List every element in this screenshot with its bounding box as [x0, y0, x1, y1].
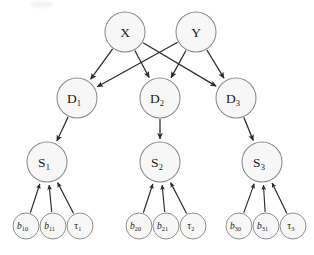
node-X: X: [105, 12, 145, 52]
edge-b11-to-S1: [49, 185, 52, 212]
node-S1: S1: [27, 142, 67, 182]
node-label-X: X: [120, 25, 130, 40]
edge-D1-to-S1: [57, 117, 68, 141]
node-D3: D3: [216, 78, 256, 118]
node-S2: S2: [140, 142, 180, 182]
edge-b20-to-S2: [143, 184, 152, 213]
node-b30: b30: [226, 213, 252, 239]
edge-b30-to-S3: [244, 184, 254, 213]
edge-Y-to-D2: [171, 50, 186, 77]
node-Y: Y: [176, 12, 216, 52]
edge-b21-to-S2: [162, 185, 165, 212]
node-t2: τ2: [180, 213, 206, 239]
edge-t2-to-S2: [171, 183, 187, 214]
node-label-Y: Y: [191, 25, 201, 40]
node-D1: D1: [57, 78, 97, 118]
node-b11: b11: [40, 213, 66, 239]
edges-layer: [30, 42, 287, 213]
edge-Y-to-D3: [207, 50, 224, 78]
edge-X-to-D1: [91, 49, 113, 79]
scan-artifact: [30, 1, 54, 8]
diagram-canvas: XYD1D2D3S1S2S3b10b11τ1b20b21τ2b30b31τ3: [0, 0, 314, 255]
node-D2: D2: [140, 78, 180, 118]
edge-t1-to-S1: [58, 183, 74, 214]
edge-D3-to-S3: [244, 117, 253, 140]
node-b31: b31: [253, 213, 279, 239]
node-b20: b20: [126, 213, 152, 239]
node-t3: τ3: [280, 213, 306, 239]
node-S3: S3: [242, 142, 282, 182]
edge-t3-to-S3: [272, 183, 287, 214]
node-b10: b10: [13, 213, 39, 239]
edge-b31-to-S3: [263, 185, 265, 212]
graph-svg: XYD1D2D3S1S2S3b10b11τ1b20b21τ2b30b31τ3: [0, 0, 314, 255]
node-t1: τ1: [67, 213, 93, 239]
edge-b10-to-S1: [30, 184, 39, 213]
node-b21: b21: [153, 213, 179, 239]
